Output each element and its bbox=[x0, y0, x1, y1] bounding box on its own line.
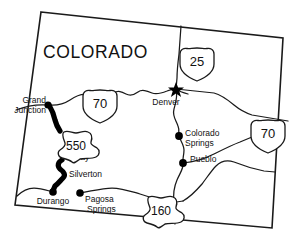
shield-label-i70-west: 70 bbox=[93, 96, 107, 111]
city-label-pagosa-springs-line1: Pagosa bbox=[85, 194, 114, 204]
shield-label-us160: 160 bbox=[151, 204, 171, 218]
city-label-grand-junction-line2: Junction bbox=[14, 105, 46, 115]
city-dot-pagosa-springs bbox=[76, 189, 84, 197]
city-dot-colorado-springs bbox=[175, 132, 183, 140]
shield-label-i70-east: 70 bbox=[261, 126, 275, 141]
city-dot-pueblo bbox=[179, 159, 187, 167]
city-label-durango: Durango bbox=[37, 196, 70, 206]
city-label-silverton: Silverton bbox=[69, 169, 102, 179]
page-title: COLORADO bbox=[43, 42, 148, 62]
city-label-pueblo: Pueblo bbox=[190, 154, 217, 164]
city-label-denver: Denver bbox=[152, 97, 180, 107]
city-label-grand-junction-line1: Grand bbox=[22, 95, 46, 105]
city-dot-durango bbox=[49, 188, 57, 196]
city-label-colorado-springs-line1: Colorado bbox=[185, 128, 220, 138]
city-label-pagosa-springs-line2: Springs bbox=[87, 204, 116, 214]
map-canvas: COLORADO Grand Junction Ouray Silverton … bbox=[0, 0, 295, 241]
city-label-colorado-springs-line2: Springs bbox=[185, 138, 214, 148]
colorado-highway-map: COLORADO Grand Junction Ouray Silverton … bbox=[0, 0, 295, 241]
shield-label-i25: 25 bbox=[190, 54, 204, 69]
shield-label-us550: 550 bbox=[66, 139, 86, 153]
